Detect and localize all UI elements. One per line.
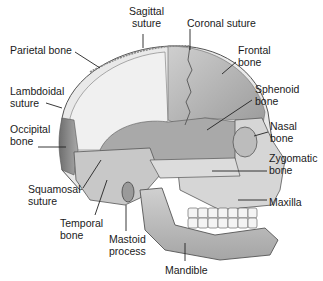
label-occipital-bone: Occipital bone <box>10 123 50 147</box>
label-zygomatic-bone: Zygomatic bone <box>269 152 317 176</box>
label-sagittal-suture: Sagittal suture <box>129 5 164 29</box>
teeth <box>188 208 257 228</box>
label-mandible: Mandible <box>165 264 208 276</box>
label-nasal-bone: Nasal bone <box>270 120 297 144</box>
zygomatic-arch <box>150 158 240 178</box>
label-parietal-bone: Parietal bone <box>10 44 72 56</box>
mastoid <box>122 182 134 202</box>
label-maxilla: Maxilla <box>269 196 302 208</box>
label-frontal-bone: Frontal bone <box>238 44 271 68</box>
label-squamosal-suture: Squamosal suture <box>28 183 81 207</box>
orbit <box>233 127 257 157</box>
label-temporal-bone: Temporal bone <box>60 217 103 241</box>
label-sphenoid-bone: Sphenoid bone <box>255 83 299 107</box>
skull-diagram: Sagittal suture Coronal suture Parietal … <box>0 0 323 281</box>
label-lambdoidal-suture: Lambdoidal suture <box>10 85 64 109</box>
label-coronal-suture: Coronal suture <box>187 17 256 29</box>
label-mastoid-process: Mastoid process <box>109 233 146 257</box>
